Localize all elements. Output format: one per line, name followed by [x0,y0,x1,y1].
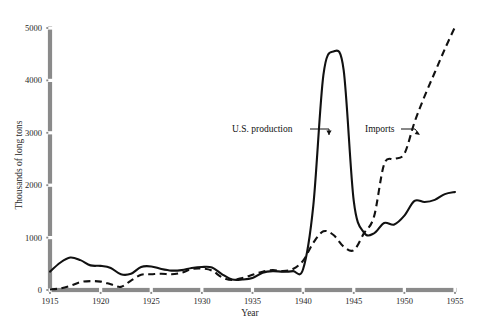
y-tick-label: 1000 [25,233,42,243]
chart-container: 010002000300040005000 191519201925193019… [0,0,480,330]
annotation-imports: Imports [365,124,420,135]
leader-arrow-us-production [326,130,331,135]
y-tick-label: 2000 [25,180,42,190]
series-line-us-production [50,50,455,280]
x-tick-label: 1945 [345,296,362,306]
y-tick-label: 0 [38,285,42,295]
x-tick-label: 1915 [42,296,59,306]
x-tick-label: 1930 [193,296,210,306]
x-tick-label: 1925 [143,296,160,306]
y-tick-label: 4000 [25,75,42,85]
x-axis: 191519201925193019351940194519501955 [42,288,464,306]
x-tick-label: 1940 [295,296,312,306]
series-layer [50,27,455,290]
production-imports-line-chart: 010002000300040005000 191519201925193019… [0,0,480,330]
x-tick-label: 1950 [396,296,413,306]
annotation-label-us-production: U.S. production [232,124,293,134]
series-line-imports [50,27,455,290]
y-axis-title: Thousands of long tons [14,120,24,209]
annotation-label-imports: Imports [365,124,395,134]
x-axis-title: Year [241,308,259,318]
y-axis: 010002000300040005000 [25,23,52,295]
leader-arrow-imports [415,131,420,135]
x-tick-label: 1920 [92,296,109,306]
y-tick-label: 5000 [25,23,42,33]
x-tick-label: 1935 [244,296,261,306]
y-tick-label: 3000 [25,128,42,138]
x-tick-label: 1955 [447,296,464,306]
annotation-us-production: U.S. production [232,124,332,135]
